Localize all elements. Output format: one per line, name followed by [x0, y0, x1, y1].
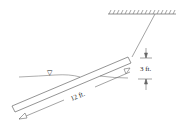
water-surface-symbol: ▽: [47, 69, 53, 77]
rod-length-label: 12 ft.: [69, 90, 86, 103]
vertical-height-label: 3 ft.: [140, 65, 152, 73]
ceiling-support: [108, 10, 176, 14]
diagram-canvas: ▽ 12 ft. 3 ft.: [0, 0, 185, 130]
rod: [12, 57, 131, 112]
water-surface: [19, 75, 128, 78]
string: [132, 14, 155, 57]
